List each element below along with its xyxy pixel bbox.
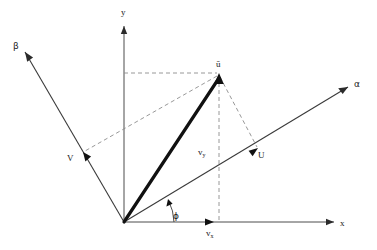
v-component-label: V <box>67 153 74 163</box>
beta-axis: β <box>13 41 124 222</box>
parallelogram-side-to-u <box>220 77 257 147</box>
beta-axis-line <box>25 52 124 222</box>
alpha-axis: α <box>124 79 360 222</box>
y-axis: y <box>121 7 127 222</box>
v-component-arrowhead-icon <box>83 152 91 162</box>
u-vector: ū <box>124 59 224 222</box>
beta-axis-label: β <box>13 41 19 51</box>
beta-axis-arrowhead-icon <box>25 52 33 62</box>
u-vector-arrowhead-icon <box>214 73 224 84</box>
phi-angle: ϕ <box>166 199 179 222</box>
phi-angle-label: ϕ <box>173 211 179 221</box>
u-vector-line <box>124 78 219 222</box>
y-axis-arrowhead-icon <box>121 26 127 34</box>
x-axis-label: x <box>340 218 345 228</box>
alpha-axis-arrowhead-icon <box>338 87 348 94</box>
axes-group: x y α β <box>13 7 360 228</box>
u-component-label: U <box>258 150 265 160</box>
alpha-axis-label: α <box>354 79 360 89</box>
vector-diagram-figure: x y α β <box>0 0 377 250</box>
vector-diagram-canvas: x y α β <box>0 0 377 250</box>
y-axis-label: y <box>121 7 126 17</box>
vy-component-vector: vy <box>198 147 206 158</box>
vy-component-label: vy <box>198 147 206 158</box>
u-component-arrowhead-icon <box>249 148 258 156</box>
x-axis-arrowhead-icon <box>326 219 334 225</box>
u-component-vector: U <box>249 148 265 160</box>
alpha-axis-line <box>124 87 348 222</box>
phi-angle-arrowhead-icon <box>166 199 172 206</box>
vx-component-arrowhead-icon <box>205 218 214 225</box>
u-vector-label: ū <box>216 59 221 69</box>
vx-component-label: vx <box>206 228 214 239</box>
vx-component-vector: vx <box>205 218 214 239</box>
v-component-vector: V <box>67 152 91 163</box>
x-axis: x <box>124 218 345 228</box>
